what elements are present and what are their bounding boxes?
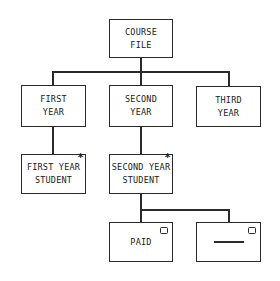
node-first-year-student: * FIRST YEAR STUDENT (21, 154, 86, 194)
node-first-year: FIRST YEAR (21, 85, 86, 127)
node-label: SECOND YEAR STUDENT (112, 161, 171, 187)
node-label: PAID (130, 236, 151, 249)
connector-root-stem (140, 58, 142, 72)
connector-second-year-to-student (140, 127, 142, 154)
node-label: FIRST YEAR STUDENT (27, 161, 80, 187)
connector-second-year-drop (140, 71, 142, 85)
connector-blank-drop (228, 209, 230, 222)
node-label: SECOND YEAR (125, 93, 157, 119)
node-course-file: COURSE FILE (109, 19, 173, 58)
selection-circle-icon (248, 227, 256, 234)
connector-paid-drop (140, 209, 142, 222)
node-third-year: THIRD YEAR (196, 86, 261, 127)
selection-circle-icon (160, 227, 168, 234)
iteration-asterisk-icon: * (77, 152, 84, 163)
node-label: COURSE FILE (125, 26, 157, 52)
connector-level3-bar (140, 209, 229, 211)
connector-first-year-to-student (52, 127, 54, 154)
null-dash-icon (214, 241, 244, 242)
node-null-branch (196, 222, 261, 262)
connector-student-stem (140, 194, 142, 210)
node-second-year-student: * SECOND YEAR STUDENT (109, 154, 173, 194)
connector-first-year-drop (52, 71, 54, 85)
connector-third-year-drop (228, 71, 230, 86)
node-second-year: SECOND YEAR (109, 85, 173, 127)
iteration-asterisk-icon: * (164, 152, 171, 163)
node-paid: PAID (109, 222, 173, 262)
node-label: FIRST YEAR (40, 93, 67, 119)
node-label: THIRD YEAR (215, 94, 242, 120)
